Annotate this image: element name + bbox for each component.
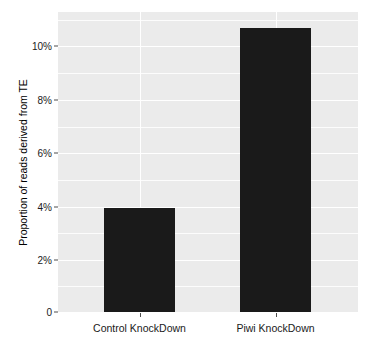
gridline-major-6 xyxy=(58,153,358,154)
y-tick-label-2: 2% xyxy=(38,254,58,265)
x-tick-mark-piwi xyxy=(276,313,277,317)
gridline-major-8 xyxy=(58,100,358,101)
gridline-minor-3 xyxy=(58,233,358,234)
x-tick-label-piwi: Piwi KnockDown xyxy=(236,322,314,334)
y-axis-title: Proportion of reads derived from TE xyxy=(16,12,30,313)
bar-piwi-knockdown xyxy=(240,28,311,312)
x-tick-label-control: Control KnockDown xyxy=(93,322,186,334)
bar-control-knockdown xyxy=(104,208,175,312)
y-tick-label-8: 8% xyxy=(38,94,58,105)
gridline-minor-11 xyxy=(58,20,358,21)
gridline-major-0 xyxy=(58,312,358,313)
gridline-major-10 xyxy=(58,46,358,47)
gridline-minor-7 xyxy=(58,127,358,128)
gridline-major-4 xyxy=(58,207,358,208)
gridline-major-2 xyxy=(58,260,358,261)
y-tick-label-10: 10% xyxy=(32,41,58,52)
y-tick-label-0: 0 xyxy=(46,307,58,318)
x-tick-mark-control xyxy=(140,313,141,317)
gridline-minor-5 xyxy=(58,180,358,181)
gridline-minor-1 xyxy=(58,286,358,287)
plot-panel xyxy=(58,12,358,313)
y-tick-label-4: 4% xyxy=(38,201,58,212)
bar-chart-figure: Proportion of reads derived from TE 10% … xyxy=(0,0,369,357)
y-tick-label-6: 6% xyxy=(38,148,58,159)
gridline-minor-9 xyxy=(58,73,358,74)
